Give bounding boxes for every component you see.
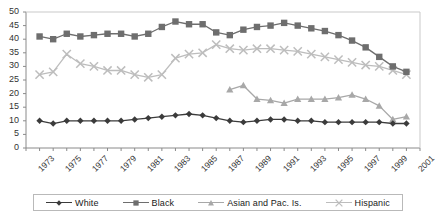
marker-square	[145, 31, 151, 37]
marker-diamond	[362, 119, 368, 125]
marker-diamond	[118, 118, 124, 124]
marker-diamond	[335, 119, 341, 125]
marker-diamond	[322, 119, 328, 125]
legend-swatch-square-icon	[123, 198, 149, 208]
marker-square	[240, 26, 246, 32]
marker-square	[64, 31, 70, 37]
marker-diamond	[91, 118, 97, 124]
marker-diamond	[227, 118, 233, 124]
marker-square	[133, 200, 138, 205]
legend-marker-cross-icon	[335, 199, 343, 207]
marker-diamond	[131, 116, 137, 122]
marker-square	[159, 24, 165, 30]
marker-square	[36, 33, 42, 39]
marker-triangle	[208, 200, 214, 205]
legend-marker-triangle-icon	[207, 199, 215, 207]
marker-square	[308, 25, 314, 31]
marker-square	[267, 22, 273, 28]
chart-legend: WhiteBlackAsian and Pac. Is.Hispanic	[33, 194, 403, 211]
marker-diamond	[50, 120, 56, 126]
legend-swatch-cross-icon	[326, 198, 352, 208]
series-white	[36, 111, 409, 127]
marker-diamond	[145, 115, 151, 121]
marker-diamond	[295, 118, 301, 124]
marker-square	[50, 36, 56, 42]
legend-label: Asian and Pac. Is.	[227, 198, 301, 208]
marker-diamond	[56, 200, 61, 205]
marker-diamond	[77, 118, 83, 124]
marker-square	[403, 69, 409, 75]
marker-diamond	[36, 118, 42, 124]
marker-diamond	[403, 120, 409, 126]
marker-diamond	[267, 116, 273, 122]
marker-diamond	[172, 112, 178, 118]
marker-triangle	[403, 113, 410, 120]
marker-square	[362, 44, 368, 50]
marker-square	[335, 32, 341, 38]
plot-area	[0, 0, 436, 220]
marker-diamond	[64, 118, 70, 124]
marker-square	[77, 33, 83, 39]
series-asian-and-pac-is	[226, 82, 410, 123]
legend-item-hispanic[interactable]: Hispanic	[326, 198, 390, 208]
marker-diamond	[281, 116, 287, 122]
marker-diamond	[254, 118, 260, 124]
marker-square	[390, 63, 396, 69]
marker-triangle	[348, 91, 355, 98]
marker-square	[118, 31, 124, 37]
marker-diamond	[349, 119, 355, 125]
marker-diamond	[104, 118, 110, 124]
legend-label: White	[75, 198, 99, 208]
marker-square	[376, 54, 382, 60]
marker-cross	[63, 50, 71, 58]
marker-square	[295, 22, 301, 28]
marker-diamond	[199, 112, 205, 118]
marker-cross	[212, 41, 220, 49]
marker-square	[172, 18, 178, 24]
legend-marker-diamond-icon	[55, 199, 63, 207]
legend-swatch-triangle-icon	[198, 198, 224, 208]
line-chart: 50454035302520151050 1973197519771979198…	[0, 0, 436, 220]
marker-square	[213, 29, 219, 35]
series-hispanic	[35, 41, 410, 82]
marker-diamond	[376, 119, 382, 125]
legend-item-black[interactable]: Black	[123, 198, 175, 208]
marker-diamond	[159, 114, 165, 120]
marker-square	[349, 37, 355, 43]
marker-diamond	[308, 118, 314, 124]
marker-square	[322, 28, 328, 34]
marker-cross	[335, 199, 342, 206]
marker-diamond	[240, 119, 246, 125]
marker-square	[91, 32, 97, 38]
marker-square	[254, 24, 260, 30]
legend-item-white[interactable]: White	[46, 198, 99, 208]
marker-square	[199, 21, 205, 27]
marker-square	[104, 31, 110, 37]
marker-square	[227, 32, 233, 38]
series-line	[230, 85, 407, 119]
marker-square	[131, 33, 137, 39]
marker-triangle	[240, 82, 247, 89]
legend-label: Black	[152, 198, 175, 208]
legend-marker-square-icon	[132, 199, 140, 207]
legend-label: Hispanic	[355, 198, 390, 208]
marker-diamond	[213, 115, 219, 121]
legend-item-asian-and-pac-is[interactable]: Asian and Pac. Is.	[198, 198, 301, 208]
marker-triangle	[376, 102, 383, 109]
marker-square	[186, 21, 192, 27]
marker-cross	[171, 54, 179, 62]
legend-swatch-diamond-icon	[46, 198, 72, 208]
marker-square	[281, 20, 287, 26]
marker-diamond	[186, 111, 192, 117]
